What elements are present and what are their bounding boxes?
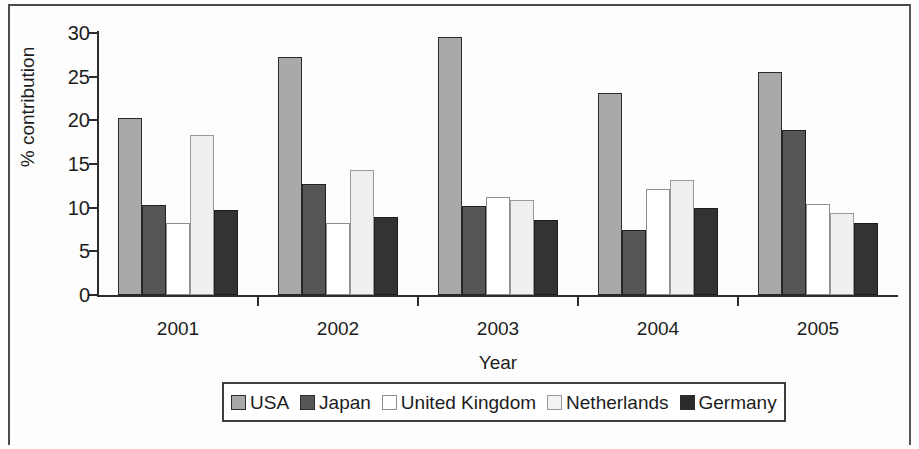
y-axis-title: % contribution	[17, 7, 39, 207]
y-axis-tick-label: 25	[44, 67, 90, 87]
figure: 051015202530 % contribution 200120022003…	[0, 0, 919, 449]
legend-item: Japan	[300, 393, 371, 412]
bar-group	[738, 33, 898, 295]
legend-swatch-icon	[382, 395, 397, 410]
x-axis-tick-label: 2001	[98, 318, 258, 340]
y-axis-tick	[89, 294, 98, 296]
bar-group	[258, 33, 418, 295]
bar	[462, 206, 486, 295]
legend-label: Netherlands	[566, 393, 668, 412]
bar	[350, 170, 374, 295]
figure-frame-top	[8, 4, 911, 6]
y-axis-tick-label: 10	[44, 198, 90, 218]
x-axis-tick-label: 2005	[738, 318, 898, 340]
bar-group	[578, 33, 738, 295]
figure-frame-left	[8, 4, 10, 445]
figure-frame-right	[909, 4, 911, 445]
y-axis-tick-label: 20	[44, 110, 90, 130]
bar	[438, 37, 462, 295]
legend-swatch-icon	[680, 395, 695, 410]
legend: USAJapanUnited KingdomNetherlandsGermany	[222, 382, 786, 422]
bar	[806, 204, 830, 295]
bar	[622, 230, 646, 296]
y-axis-tick	[89, 250, 98, 252]
bar	[278, 57, 302, 295]
x-axis-tick	[257, 296, 259, 306]
bar	[326, 223, 350, 295]
y-axis-tick	[89, 163, 98, 165]
bar	[534, 220, 558, 295]
bar-group	[418, 33, 578, 295]
bar	[854, 223, 878, 295]
bar	[758, 72, 782, 295]
legend-item: USA	[231, 393, 289, 412]
y-axis-tick-label: 15	[44, 154, 90, 174]
y-axis-tick-label: 30	[44, 23, 90, 43]
bar	[214, 210, 238, 295]
x-axis-line	[97, 295, 898, 297]
bar	[166, 223, 190, 295]
y-axis-tick	[89, 119, 98, 121]
legend-item: Netherlands	[547, 393, 668, 412]
bar	[142, 205, 166, 295]
legend-label: Germany	[699, 393, 777, 412]
legend-swatch-icon	[231, 395, 246, 410]
bar	[190, 135, 214, 295]
bar	[486, 197, 510, 295]
bar	[302, 184, 326, 295]
legend-label: United Kingdom	[401, 393, 536, 412]
bar	[646, 189, 670, 295]
legend-swatch-icon	[300, 395, 315, 410]
bar	[118, 118, 142, 295]
x-axis-tick-label: 2003	[418, 318, 578, 340]
bar	[782, 130, 806, 295]
y-axis-tick	[89, 207, 98, 209]
x-axis-tick	[417, 296, 419, 306]
x-axis-tick-label: 2004	[578, 318, 738, 340]
x-axis-tick-label: 2002	[258, 318, 418, 340]
bar	[598, 93, 622, 295]
y-axis-tick-label: 5	[44, 241, 90, 261]
bar	[670, 180, 694, 295]
y-axis-tick	[89, 32, 98, 34]
bar	[510, 200, 534, 295]
bar	[694, 208, 718, 295]
bar	[374, 217, 398, 295]
y-axis-tick	[89, 76, 98, 78]
x-axis-title: Year	[98, 352, 898, 374]
bar	[830, 213, 854, 295]
legend-label: USA	[250, 393, 289, 412]
legend-label: Japan	[319, 393, 371, 412]
legend-swatch-icon	[547, 395, 562, 410]
y-axis-tick-label: 0	[44, 285, 90, 305]
plot-area	[98, 33, 898, 295]
legend-item: Germany	[680, 393, 777, 412]
legend-item: United Kingdom	[382, 393, 536, 412]
x-axis-tick	[577, 296, 579, 306]
bar-group	[98, 33, 258, 295]
x-axis-tick	[737, 296, 739, 306]
